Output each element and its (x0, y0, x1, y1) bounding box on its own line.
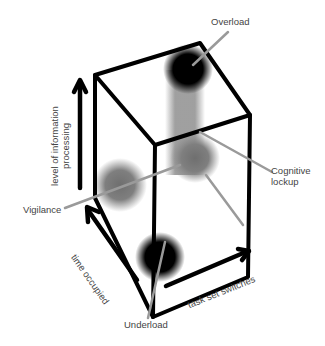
vertical-axis-label: level of information processing (49, 86, 71, 206)
cognitive-lockup-blob (170, 133, 220, 183)
overload-label: Overload (211, 16, 250, 27)
cube-diagram: Overload Cognitive lockup Vigilance Unde… (0, 0, 325, 346)
underload-blob (135, 232, 185, 282)
depth-axis-arrow (87, 207, 137, 280)
underload-label: Underload (124, 319, 168, 330)
vigilance-blob (93, 158, 147, 212)
vertical-axis-arrow (74, 80, 86, 188)
cognitive-lockup-label: Cognitive lockup (271, 165, 311, 187)
